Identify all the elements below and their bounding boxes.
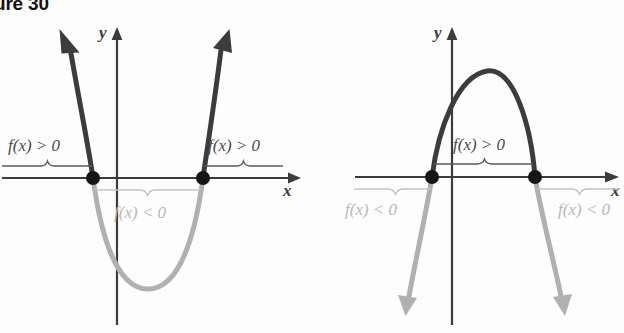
left-negative-brace [95,190,201,196]
left-negative-label: f(x) < 0 [114,203,167,222]
right-positive-brace [434,159,533,164]
left-positive-label-right: f(x) > 0 [208,136,261,155]
right-curve-right-arrowhead [553,294,572,316]
right-negative-label-right: f(x) < 0 [558,200,611,219]
left-root-dot-2 [196,171,210,185]
right-y-axis-label: y [432,23,442,42]
right-parabola-chart: y x f(x) > 0 f(x) < 0 f(x) < 0 [345,23,620,325]
right-x-axis [355,172,619,183]
left-y-axis-label: y [97,23,107,42]
right-curve-negative-left-segment [409,177,432,296]
left-parabola-chart: y x f(x) > 0 f(x) > 0 f(x) < 0 [2,23,301,325]
right-negative-brace-left [354,189,431,195]
right-root-dot-2 [528,170,542,184]
right-negative-brace-right [537,189,620,195]
left-positive-brace-right [204,161,283,166]
left-y-axis [112,27,123,325]
figure-container: ure 30 y x [0,0,624,333]
figure-svg: y x f(x) > 0 f(x) > 0 f(x) < 0 [0,0,624,333]
left-curve-positive-right-segment [203,50,221,178]
right-curve-negative-right-segment [535,177,561,296]
right-positive-label: f(x) > 0 [453,135,506,154]
left-x-axis-label: x [282,181,292,200]
left-root-dot-1 [86,171,100,185]
left-curve-positive-left-segment [70,48,93,178]
right-negative-label-left: f(x) < 0 [345,200,398,219]
right-x-axis-label: x [610,181,620,200]
right-curve-left-arrowhead [398,295,417,316]
left-curve-left-arrowhead [60,29,80,54]
right-root-dot-1 [425,170,439,184]
left-positive-label-left: f(x) > 0 [8,136,61,155]
left-curve-right-arrowhead [213,29,232,53]
left-positive-brace-left [2,161,92,166]
left-x-axis [2,173,301,184]
